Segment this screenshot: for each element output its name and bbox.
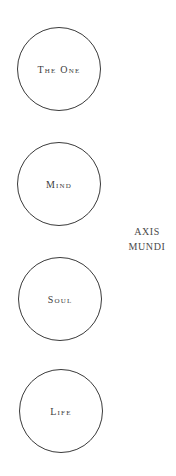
- node-mind: Mind: [17, 142, 101, 226]
- node-soul: Soul: [18, 257, 102, 341]
- node-life: Life: [19, 369, 103, 453]
- node-label: The One: [38, 64, 81, 75]
- node-the-one: The One: [17, 27, 101, 111]
- node-label: Mind: [46, 179, 72, 190]
- axis-label-line2: MUNDI: [122, 239, 172, 254]
- axis-label-line1: AXIS: [122, 224, 172, 239]
- node-label: Life: [50, 406, 71, 417]
- axis-mundi-label: AXIS MUNDI: [122, 224, 172, 254]
- node-label: Soul: [48, 294, 73, 305]
